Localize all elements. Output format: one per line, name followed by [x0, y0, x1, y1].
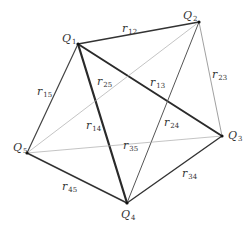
edge-label-r34: r34	[182, 167, 198, 181]
edge-label-r13: r13	[150, 76, 165, 90]
edge-label-r12: r12	[122, 22, 137, 36]
node-label-q1: Q1	[62, 32, 77, 46]
node-label-q3: Q3	[228, 129, 243, 143]
edge-label-r15: r15	[37, 85, 52, 99]
edge-q1-q5	[27, 44, 78, 153]
edge-label-r24: r24	[164, 116, 180, 130]
edge-q3-q4	[127, 136, 222, 203]
edge-q1-q3	[78, 44, 222, 136]
edge-label-r25: r25	[97, 75, 112, 89]
edge-labels-group: r12r13r14r15r23r24r25r34r35r45	[37, 22, 227, 194]
edge-label-r23: r23	[212, 68, 227, 82]
edge-q4-q5	[27, 153, 127, 203]
node-q1-point	[76, 42, 79, 45]
network-diagram: r12r13r14r15r23r24r25r34r35r45 Q1Q2Q3Q4Q…	[0, 0, 251, 226]
edge-label-r35: r35	[123, 139, 138, 153]
node-q2-point	[197, 20, 200, 23]
edge-label-r14: r14	[86, 119, 102, 133]
node-label-q2: Q2	[183, 9, 198, 23]
node-label-q4: Q4	[121, 208, 136, 222]
node-q3-point	[220, 134, 223, 137]
edge-q1-q2	[78, 22, 199, 44]
nodes-group: Q1Q2Q3Q4Q5	[13, 9, 243, 222]
node-q4-point	[125, 201, 128, 204]
node-label-q5: Q5	[13, 141, 28, 155]
edge-label-r45: r45	[62, 180, 77, 194]
